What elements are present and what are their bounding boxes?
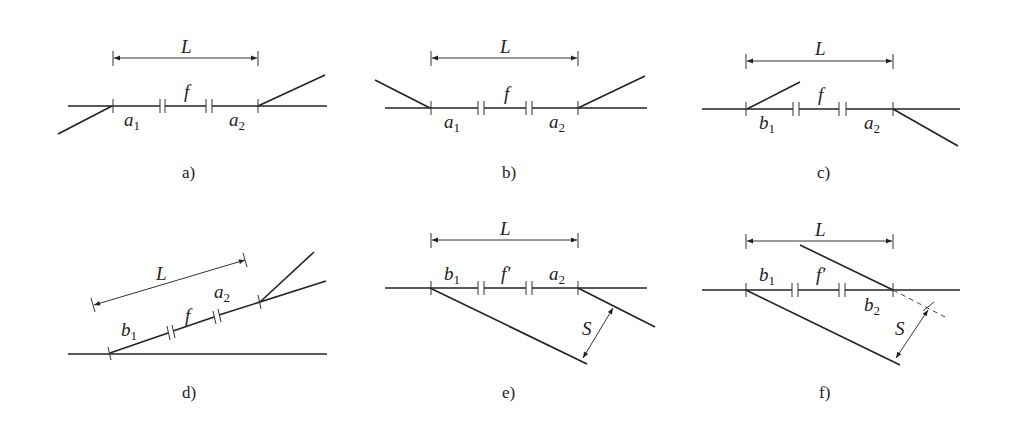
segment-label-a2: a2	[214, 281, 230, 305]
dimension-label: L	[180, 36, 192, 57]
segment-label-a2: a2	[864, 112, 880, 136]
panel-caption: a)	[182, 163, 195, 182]
panel-c: L b1 f a2 c)	[702, 38, 960, 182]
segment-label-b1: b1	[444, 263, 460, 287]
segment-label-a1: a1	[124, 109, 140, 133]
spacing-label: S	[895, 318, 905, 339]
dimension-L: L	[113, 36, 258, 66]
panel-e: L S b1 f′ a2 e)	[385, 218, 655, 402]
segment-label-f: f	[504, 83, 512, 104]
dimension-label: L	[499, 36, 511, 57]
spacing-label: S	[582, 318, 592, 339]
turnout-layout-figure: L a1 f a2 a) L	[0, 0, 1009, 427]
segment-label-f: f	[184, 81, 192, 102]
track-lines	[58, 75, 327, 134]
panel-caption: e)	[502, 383, 515, 402]
segment-label-b1: b1	[759, 264, 775, 288]
segment-label-f: f	[818, 84, 826, 105]
panel-d: L b1 f a2 d)	[68, 252, 327, 402]
segment-label-a2: a2	[549, 263, 565, 287]
panel-f: L S b1 f′ b2 f)	[702, 219, 960, 402]
panel-caption: d)	[182, 383, 196, 402]
dimension-L: L	[746, 219, 893, 249]
dimension-label: L	[814, 219, 826, 240]
spacing-S: S	[582, 308, 613, 358]
track-lines	[68, 252, 327, 360]
panel-caption: c)	[817, 163, 830, 182]
panel-a: L a1 f a2 a)	[58, 36, 327, 182]
dimension-L: L	[746, 38, 893, 69]
segment-label-b2: b2	[864, 294, 880, 318]
segment-label-f-prime: f′	[501, 263, 511, 284]
segment-label-a2: a2	[549, 111, 565, 135]
segment-label-f: f	[185, 305, 193, 326]
dimension-L: L	[431, 218, 578, 248]
dimension-label: L	[155, 263, 167, 284]
segment-label-a2: a2	[229, 109, 245, 133]
dimension-label: L	[499, 218, 511, 239]
diagram-canvas: L a1 f a2 a) L	[0, 0, 1009, 427]
panel-caption: f)	[819, 383, 830, 402]
panel-caption: b)	[502, 163, 516, 182]
track-lines	[702, 245, 960, 365]
dimension-label: L	[814, 38, 826, 59]
segment-label-f-prime: f′	[816, 264, 826, 285]
segment-label-b1: b1	[121, 319, 137, 343]
panel-b: L a1 f a2 b)	[375, 36, 647, 182]
spacing-S: S	[895, 310, 928, 358]
track-lines	[375, 76, 647, 115]
track-lines	[385, 281, 655, 364]
track-lines	[702, 82, 960, 146]
dimension-L: L	[431, 36, 578, 66]
segment-label-b1: b1	[759, 112, 775, 136]
segment-label-a1: a1	[444, 111, 460, 135]
